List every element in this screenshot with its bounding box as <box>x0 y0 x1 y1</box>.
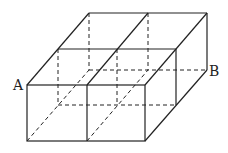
cube-diagram: A B <box>0 0 228 153</box>
label-a: A <box>12 77 24 93</box>
label-b: B <box>209 63 219 79</box>
front-face <box>27 85 145 141</box>
hidden-edges <box>27 13 207 141</box>
